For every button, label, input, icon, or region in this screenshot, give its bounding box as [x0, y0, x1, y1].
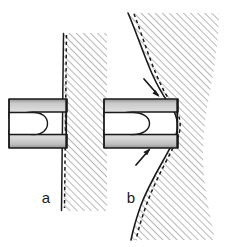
panel-b-label: b	[127, 189, 135, 206]
wall-a-edge	[62, 34, 64, 211]
panel-a-label: a	[42, 189, 51, 206]
fork-a-slot	[9, 113, 48, 135]
fork-clamp-a	[9, 99, 67, 148]
hatched-wall-a	[62, 33, 109, 211]
panel-b: b	[104, 10, 227, 244]
diagram-canvas: a b	[0, 0, 227, 247]
fork-b-slot	[104, 113, 150, 135]
figure-container: a b	[0, 0, 227, 247]
fork-clamp-b	[104, 99, 178, 148]
lower-flow-arrow	[136, 148, 151, 165]
panel-a: a	[9, 33, 108, 211]
